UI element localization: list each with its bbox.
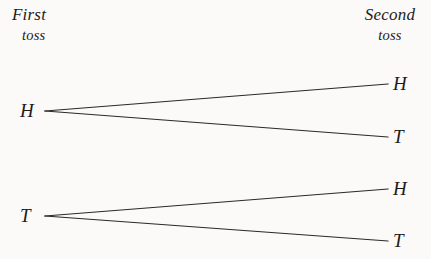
column-heading-first-toss: First toss: [12, 6, 132, 43]
tree-diagram-canvas: First toss Second toss H T H T H T: [0, 0, 431, 259]
branch-line-t-to-t: [45, 216, 388, 241]
node-first-toss-heads: H: [20, 101, 34, 120]
column-heading-first-line1: First: [12, 6, 132, 23]
node-second-toss-tails-heads: H: [393, 179, 407, 198]
node-second-toss-heads-tails: T: [393, 127, 404, 146]
column-heading-second-toss: Second toss: [352, 6, 428, 43]
node-second-toss-tails-tails: T: [393, 231, 404, 250]
branch-line-h-to-h: [45, 84, 388, 111]
node-second-toss-heads-heads: H: [393, 74, 407, 93]
branch-line-t-to-h: [45, 189, 388, 216]
branch-line-h-to-t: [45, 111, 388, 137]
column-heading-second-line2: toss: [352, 28, 428, 43]
node-first-toss-tails: T: [20, 206, 31, 225]
column-heading-second-line1: Second: [352, 6, 428, 23]
column-heading-first-line2: toss: [22, 28, 132, 43]
